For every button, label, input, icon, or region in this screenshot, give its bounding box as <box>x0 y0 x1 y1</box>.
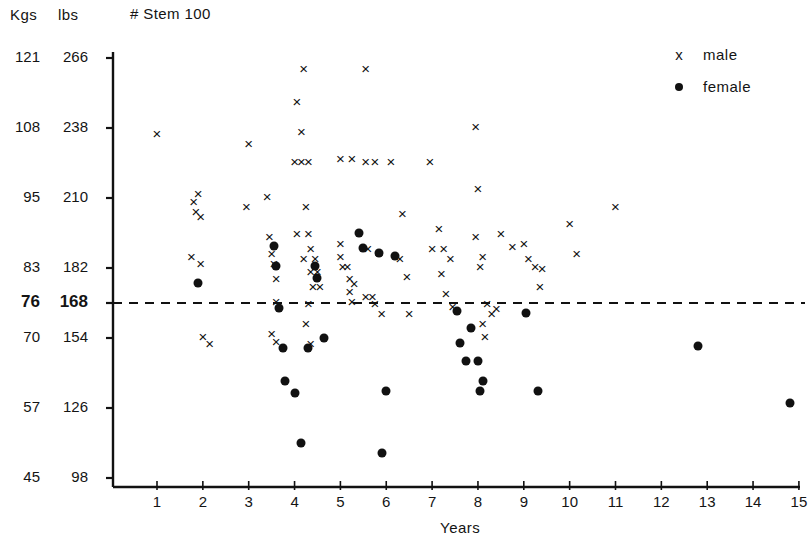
data-point-male: × <box>336 151 345 166</box>
x-tick-9: 9 <box>513 493 535 510</box>
y-tick-kgs-121: 121 <box>2 48 40 65</box>
x-tick-11: 11 <box>605 493 627 510</box>
data-point-male: × <box>402 268 411 283</box>
data-point-female <box>453 306 462 315</box>
data-point-male: × <box>153 126 162 141</box>
data-point-male: × <box>347 151 356 166</box>
data-point-female <box>473 356 482 365</box>
y-tick-lbs-266: 266 <box>48 48 88 65</box>
legend-female-label: female <box>703 78 751 95</box>
data-point-female <box>297 439 306 448</box>
y-tick-lbs-126: 126 <box>48 398 88 415</box>
y-tick-lbs-168: 168 <box>48 292 88 312</box>
data-point-male: × <box>205 336 214 351</box>
x-tick-7: 7 <box>421 493 443 510</box>
data-point-male: × <box>398 206 407 221</box>
data-point-female <box>382 386 391 395</box>
x-tick-1: 1 <box>146 493 168 510</box>
data-point-female <box>311 261 320 270</box>
data-point-male: × <box>244 136 253 151</box>
data-point-male: × <box>446 251 455 266</box>
y-tick-lbs-238: 238 <box>48 118 88 135</box>
y-tick-lbs-154: 154 <box>48 328 88 345</box>
x-tick-3: 3 <box>238 493 260 510</box>
data-point-female <box>375 249 384 258</box>
data-point-male: × <box>299 61 308 76</box>
data-point-male: × <box>263 188 272 203</box>
x-tick-2: 2 <box>192 493 214 510</box>
data-point-male: × <box>350 276 359 291</box>
data-point-female <box>359 244 368 253</box>
y-tick-kgs-108: 108 <box>2 118 40 135</box>
data-point-male: × <box>535 278 544 293</box>
data-point-male: × <box>304 153 313 168</box>
y-tick-kgs-57: 57 <box>2 398 40 415</box>
data-point-female <box>391 251 400 260</box>
data-point-male: × <box>370 153 379 168</box>
x-tick-10: 10 <box>559 493 581 510</box>
data-point-female <box>320 334 329 343</box>
data-point-male: × <box>519 236 528 251</box>
data-point-male: × <box>347 293 356 308</box>
data-point-male: × <box>297 123 306 138</box>
x-tick-4: 4 <box>284 493 306 510</box>
data-point-female <box>377 449 386 458</box>
data-point-male: × <box>302 198 311 213</box>
y-tick-lbs-98: 98 <box>48 468 88 485</box>
data-point-male: × <box>302 316 311 331</box>
data-point-male: × <box>538 261 547 276</box>
data-point-male: × <box>194 186 203 201</box>
data-point-female <box>694 341 703 350</box>
data-point-female <box>522 309 531 318</box>
data-point-female <box>194 279 203 288</box>
y-tick-kgs-95: 95 <box>2 188 40 205</box>
data-point-male: × <box>405 306 414 321</box>
data-point-male: × <box>508 238 517 253</box>
x-tick-15: 15 <box>788 493 810 510</box>
data-point-female <box>304 344 313 353</box>
legend-male-marker: x <box>672 46 686 63</box>
data-point-male: × <box>474 181 483 196</box>
data-point-male: × <box>476 258 485 273</box>
y-tick-kgs-70: 70 <box>2 328 40 345</box>
data-point-male: × <box>428 241 437 256</box>
data-point-male: × <box>435 221 444 236</box>
data-point-male: × <box>242 198 251 213</box>
data-point-male: × <box>611 198 620 213</box>
x-tick-12: 12 <box>650 493 672 510</box>
data-point-male: × <box>425 153 434 168</box>
data-point-male: × <box>196 208 205 223</box>
data-point-female <box>290 389 299 398</box>
data-point-female <box>279 344 288 353</box>
data-point-male: × <box>437 266 446 281</box>
y-tick-lbs-182: 182 <box>48 258 88 275</box>
data-point-male: × <box>471 228 480 243</box>
data-point-female <box>467 324 476 333</box>
x-tick-5: 5 <box>329 493 351 510</box>
data-point-female <box>281 376 290 385</box>
y-tick-kgs-45: 45 <box>2 468 40 485</box>
data-point-female <box>533 386 542 395</box>
data-point-male: × <box>304 296 313 311</box>
x-tick-13: 13 <box>696 493 718 510</box>
data-point-male: × <box>377 306 386 321</box>
data-point-female <box>785 399 794 408</box>
data-point-male: × <box>492 301 501 316</box>
data-point-male: × <box>496 226 505 241</box>
data-point-male: × <box>361 153 370 168</box>
data-point-male: × <box>292 93 301 108</box>
data-point-female <box>462 356 471 365</box>
data-point-female <box>476 386 485 395</box>
data-point-male: × <box>292 226 301 241</box>
x-axis-title: Years <box>440 519 480 536</box>
data-point-male: × <box>304 226 313 241</box>
data-point-male: × <box>361 61 370 76</box>
y-tick-kgs-83: 83 <box>2 258 40 275</box>
data-point-female <box>269 241 278 250</box>
legend-female-marker <box>675 83 683 91</box>
data-point-female <box>354 229 363 238</box>
x-tick-8: 8 <box>467 493 489 510</box>
data-point-male: × <box>187 248 196 263</box>
data-point-male: × <box>565 216 574 231</box>
